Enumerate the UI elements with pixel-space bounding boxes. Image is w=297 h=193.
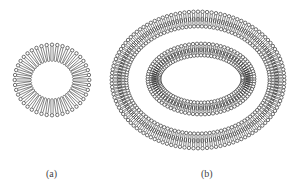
panel-a-label: (a) <box>46 168 57 179</box>
panel-b-label: (b) <box>201 168 213 179</box>
panel-b-multilamellar-vesicle <box>110 10 286 150</box>
panel-a-vesicle <box>13 43 91 117</box>
liposome-figure <box>0 0 297 193</box>
